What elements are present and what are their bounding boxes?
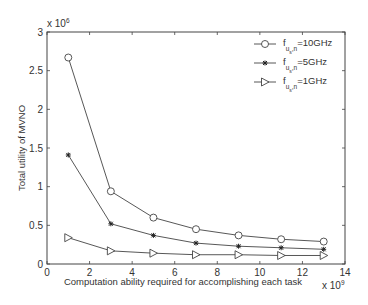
y-tick-label: 2 bbox=[37, 104, 43, 115]
star-marker bbox=[279, 245, 284, 250]
star-marker bbox=[108, 221, 113, 226]
triangle-marker bbox=[262, 78, 270, 86]
legend-label: fus,n=1GHz bbox=[283, 75, 327, 93]
y-tick-label: 3 bbox=[37, 27, 43, 38]
circle-marker bbox=[150, 214, 157, 221]
y-multiplier: x 106 bbox=[47, 17, 70, 29]
circle-marker bbox=[235, 232, 242, 239]
y-tick-label: 1.5 bbox=[29, 143, 43, 154]
legend-label: fus,n=10GHz bbox=[283, 37, 333, 55]
legend-item: fus,n=1GHz bbox=[254, 75, 327, 93]
line-chart: 02468101214 00.511.522.53 x 106 x 109 Co… bbox=[0, 0, 368, 305]
triangle-marker bbox=[193, 251, 201, 259]
y-tick-label: 0 bbox=[37, 259, 43, 270]
series-line bbox=[66, 152, 326, 251]
x-tick-label: 14 bbox=[339, 267, 351, 278]
circle-marker bbox=[320, 238, 327, 245]
legend-item: fus,n=10GHz bbox=[254, 37, 333, 55]
y-tick-label: 1 bbox=[37, 181, 43, 192]
circle-marker bbox=[65, 54, 72, 61]
x-multiplier: x 109 bbox=[322, 279, 345, 291]
star-marker bbox=[263, 61, 268, 66]
x-axis-label: Computation ability required for accompl… bbox=[64, 276, 302, 287]
star-marker bbox=[66, 152, 71, 157]
circle-marker bbox=[107, 188, 114, 195]
triangle-marker bbox=[278, 251, 286, 259]
x-tick-label: 0 bbox=[44, 267, 50, 278]
star-marker bbox=[194, 241, 199, 246]
circle-marker bbox=[278, 236, 285, 243]
triangle-marker bbox=[320, 251, 328, 259]
circle-marker bbox=[262, 41, 269, 48]
star-marker bbox=[236, 244, 241, 249]
star-marker bbox=[321, 247, 326, 252]
y-tick-label: 2.5 bbox=[29, 65, 43, 76]
star-marker bbox=[151, 233, 156, 238]
legend-item: fus,n=5GHz bbox=[254, 56, 327, 74]
y-tick-label: 0.5 bbox=[29, 220, 43, 231]
y-axis-label: Total utility of MVNO bbox=[16, 105, 27, 191]
legend: fus,n=10GHzfus,n=5GHzfus,n=1GHz bbox=[254, 37, 333, 93]
triangle-marker bbox=[107, 247, 115, 255]
triangle-marker bbox=[150, 249, 158, 257]
legend-label: fus,n=5GHz bbox=[283, 56, 327, 74]
triangle-marker bbox=[235, 251, 243, 259]
circle-marker bbox=[193, 226, 200, 233]
series-line bbox=[65, 234, 328, 260]
triangle-marker bbox=[65, 234, 73, 242]
